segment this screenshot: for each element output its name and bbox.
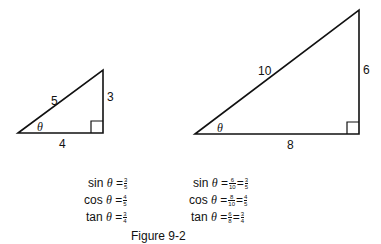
right-angle-marker-icon [347, 122, 359, 134]
left-tan-equation: tan θ =34 [86, 211, 128, 224]
right-tan-equation: tan θ =68=34 [191, 211, 245, 224]
right-angle-marker-icon [91, 121, 103, 133]
right-sin-equation: sin θ =610=35 [193, 177, 249, 190]
large-hypotenuse-label: 10 [258, 65, 271, 77]
triangles-figure [0, 0, 381, 244]
small-hypotenuse-label: 5 [51, 95, 58, 107]
large-angle-label: θ [217, 122, 223, 134]
small-adjacent-label: 4 [59, 138, 66, 150]
left-cos-equation: cos θ =45 [84, 194, 128, 207]
right-cos-equation: cos θ =810=45 [189, 194, 248, 207]
figure-caption: Figure 9-2 [131, 229, 186, 243]
large-opposite-label: 6 [363, 64, 370, 76]
small-triangle [18, 70, 103, 133]
small-angle-label: θ [37, 121, 43, 133]
large-adjacent-label: 8 [287, 139, 294, 151]
large-triangle [195, 10, 359, 134]
small-opposite-label: 3 [107, 91, 114, 103]
left-sin-equation: sin θ =35 [88, 177, 128, 190]
